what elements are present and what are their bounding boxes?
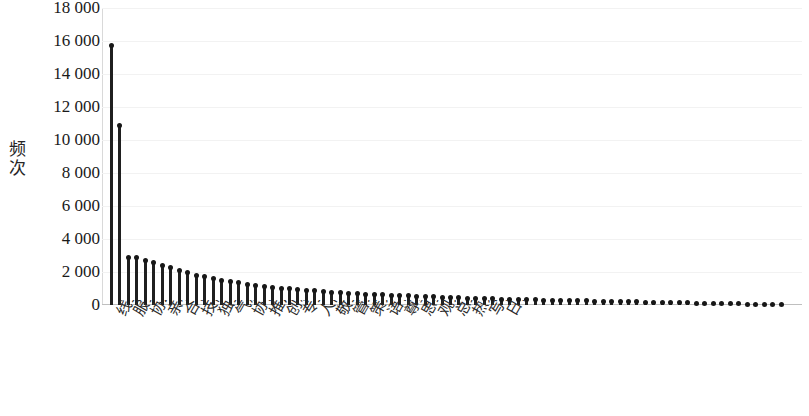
data-point-marker <box>177 268 182 273</box>
data-point-marker <box>389 293 394 298</box>
bar <box>152 263 155 305</box>
gridline <box>102 173 802 174</box>
data-point-marker <box>134 255 139 260</box>
bar <box>110 46 113 305</box>
y-axis-tick-label: 6 000 <box>14 196 100 216</box>
data-point-marker <box>397 293 402 298</box>
data-point-marker <box>440 295 445 300</box>
bar <box>135 258 138 305</box>
data-point-marker <box>338 290 343 295</box>
y-axis-tick-label: 8 000 <box>14 163 100 183</box>
data-point-marker <box>202 274 207 279</box>
bar <box>144 260 147 305</box>
gridline <box>102 140 802 141</box>
y-axis-tick-label: 18 000 <box>14 0 100 18</box>
x-axis-tick-label: 日语 <box>500 300 534 319</box>
data-point-marker <box>236 280 241 285</box>
plot-area <box>102 8 802 305</box>
gridline <box>102 8 802 9</box>
data-point-marker <box>109 43 114 48</box>
bar <box>118 125 121 305</box>
gridline <box>102 239 802 240</box>
data-point-marker <box>431 294 436 299</box>
data-point-marker <box>151 260 156 265</box>
y-axis-tick-label: 2 000 <box>14 262 100 282</box>
data-point-marker <box>346 291 351 296</box>
data-point-marker <box>245 282 250 287</box>
data-point-marker <box>219 278 224 283</box>
y-axis-tick-label: 4 000 <box>14 229 100 249</box>
data-point-marker <box>168 265 173 270</box>
data-point-marker <box>423 294 428 299</box>
gridline <box>102 41 802 42</box>
data-point-marker <box>295 287 300 292</box>
data-point-marker <box>185 270 190 275</box>
data-point-marker <box>406 293 411 298</box>
data-point-marker <box>414 294 419 299</box>
data-point-marker <box>270 285 275 290</box>
data-point-marker <box>380 292 385 297</box>
gridline <box>102 272 802 273</box>
data-point-marker <box>363 292 368 297</box>
data-point-marker <box>126 255 131 260</box>
data-point-marker <box>355 291 360 296</box>
data-point-marker <box>160 263 165 268</box>
y-axis-tick-label: 16 000 <box>14 31 100 51</box>
data-point-marker <box>253 283 258 288</box>
data-point-marker <box>194 273 199 278</box>
data-point-marker <box>228 279 233 284</box>
x-axis-tick-labels: 线上服务意识协助亲和力合作技能独立气质佳协作推广创新专业知识人际交往敬业精神管理… <box>0 300 809 416</box>
data-point-marker <box>287 286 292 291</box>
bar <box>127 257 130 305</box>
data-point-marker <box>143 258 148 263</box>
data-point-marker <box>117 123 122 128</box>
data-point-marker <box>279 286 284 291</box>
y-axis-tick-label: 14 000 <box>14 64 100 84</box>
y-axis-tick-label: 10 000 <box>14 130 100 150</box>
data-point-marker <box>262 284 267 289</box>
gridline <box>102 74 802 75</box>
data-point-marker <box>312 288 317 293</box>
data-point-marker <box>329 290 334 295</box>
gridline <box>102 206 802 207</box>
data-point-marker <box>321 289 326 294</box>
y-axis-tick-label: 12 000 <box>14 97 100 117</box>
gridline <box>102 107 802 108</box>
data-point-marker <box>372 292 377 297</box>
y-axis-line <box>102 8 103 305</box>
data-point-marker <box>304 288 309 293</box>
frequency-chart: 频次 18 00016 00014 00012 00010 0008 0006 … <box>0 0 809 416</box>
data-point-marker <box>211 276 216 281</box>
